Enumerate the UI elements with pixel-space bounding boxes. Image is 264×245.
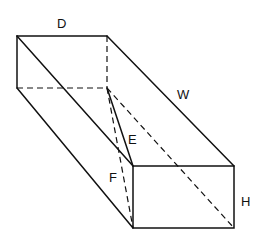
label-D: D xyxy=(57,16,66,31)
edge-top-left-long xyxy=(17,36,133,166)
edge-bottom-left-long xyxy=(17,88,133,228)
label-H: H xyxy=(241,194,250,209)
label-F: F xyxy=(109,170,117,185)
label-W: W xyxy=(177,87,190,102)
hidden-diagonal-F xyxy=(107,88,133,228)
box-diagram: D W E F H xyxy=(0,0,264,245)
diagonal-E xyxy=(107,88,133,166)
front-face xyxy=(133,166,234,228)
label-E: E xyxy=(128,132,137,147)
